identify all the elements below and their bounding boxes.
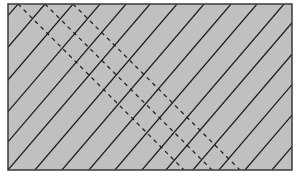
hatched-rectangle-diagram [0, 0, 297, 182]
diagram-canvas [0, 0, 297, 182]
rectangle-fill [8, 4, 292, 170]
